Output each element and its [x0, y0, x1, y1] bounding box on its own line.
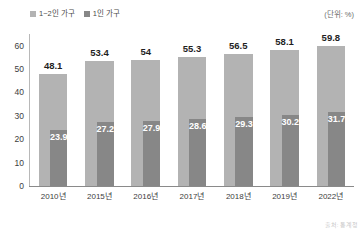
- plot-area: 48.123.953.427.25427.955.328.656.529.358…: [30, 34, 354, 186]
- x-axis-tick-label: 2019년: [261, 190, 307, 201]
- y-axis: 0102030405060: [0, 34, 26, 186]
- bar-value-label-1-person-household: 31.7: [328, 114, 346, 124]
- bar-value-label-1to2-person-household: 56.5: [229, 40, 248, 51]
- bar-value-label-1-person-household: 30.2: [282, 117, 300, 127]
- source-note: 출처: 통계청: [325, 220, 358, 229]
- bar-value-label-1to2-person-household: 54: [140, 46, 151, 57]
- bar-value-label-1-person-household: 23.9: [50, 132, 68, 142]
- legend-item-1to2-person-household: 1~2인 가구: [30, 10, 75, 18]
- bar-group: 48.123.9: [39, 34, 68, 186]
- x-axis-tick-label: 2017년: [169, 190, 215, 201]
- x-axis-tick-label: 2018년: [215, 190, 261, 201]
- bar-value-label-1-person-household: 27.2: [96, 124, 114, 134]
- legend-swatch-1-person-household: [84, 11, 90, 17]
- bar-group: 53.427.2: [85, 34, 114, 186]
- bar-value-label-1-person-household: 27.9: [143, 123, 161, 133]
- y-axis-tick-label: 40: [15, 87, 24, 97]
- bar-group: 55.328.6: [178, 34, 207, 186]
- bar-group: 59.831.7: [317, 34, 346, 186]
- bar-chart-household-share: 1~2인 가구 1인 가구 (단위: %) 0102030405060 48.1…: [0, 0, 364, 230]
- x-axis-labels: 2010년2015년2016년2017년2018년2019년2022년: [30, 190, 354, 206]
- x-axis-tick-label: 2016년: [123, 190, 169, 201]
- x-axis-tick-label: 2010년: [30, 190, 76, 201]
- x-axis-line: [29, 186, 354, 187]
- bar-value-label-1to2-person-household: 59.8: [322, 32, 341, 43]
- bar-group: 58.130.2: [270, 34, 299, 186]
- y-axis-tick-label: 50: [15, 64, 24, 74]
- bar-value-label-1to2-person-household: 48.1: [44, 60, 63, 71]
- bar-value-label-1to2-person-household: 55.3: [183, 43, 202, 54]
- x-axis-tick-label: 2022년: [308, 190, 354, 201]
- legend-item-1-person-household: 1인 가구: [84, 10, 120, 18]
- bar-value-label-1-person-household: 28.6: [189, 121, 207, 131]
- legend-label-1-person-household: 1인 가구: [93, 10, 120, 18]
- legend-swatch-1to2-person-household: [30, 11, 36, 17]
- unit-note: (단위: %): [324, 8, 354, 19]
- y-axis-tick-label: 10: [15, 158, 24, 168]
- y-axis-tick-label: 30: [15, 111, 24, 121]
- legend-label-1to2-person-household: 1~2인 가구: [39, 10, 75, 18]
- bar-group: 56.529.3: [224, 34, 253, 186]
- bar-value-label-1-person-household: 29.3: [235, 119, 253, 129]
- x-axis-tick-label: 2015년: [76, 190, 122, 201]
- y-axis-tick-label: 60: [15, 41, 24, 51]
- y-axis-tick-label: 20: [15, 134, 24, 144]
- chart-legend: 1~2인 가구 1인 가구: [30, 8, 120, 20]
- bar-group: 5427.9: [131, 34, 160, 186]
- bar-value-label-1to2-person-household: 58.1: [275, 36, 294, 47]
- bar-value-label-1to2-person-household: 53.4: [90, 47, 109, 58]
- y-axis-tick-label: 0: [19, 181, 24, 191]
